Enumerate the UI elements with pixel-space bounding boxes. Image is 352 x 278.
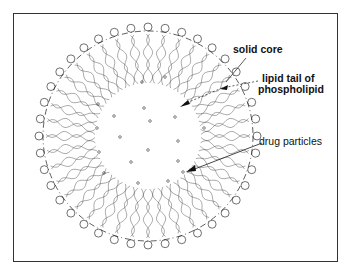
phospholipid-head: [127, 240, 135, 248]
phospholipid-head: [40, 98, 48, 106]
lipid-tail: [143, 189, 149, 238]
phospholipid-head: [252, 115, 260, 123]
phospholipid-shell: [35, 23, 261, 249]
lipid-tail: [153, 189, 165, 237]
lipid-tail: [117, 39, 135, 86]
label-drug-particles: drug particles: [259, 136, 322, 147]
lipid-tail: [52, 154, 99, 169]
drug-particle: [119, 136, 122, 139]
phospholipid-head: [178, 28, 186, 36]
drug-particle: [113, 115, 116, 118]
drug-particle: [177, 140, 180, 143]
lipid-tail: [46, 135, 95, 141]
lipid-tail: [52, 103, 99, 118]
lipid-tail: [115, 186, 130, 233]
phospholipid-head: [36, 149, 44, 157]
lipid-tail: [201, 131, 250, 137]
lipid-tail: [51, 150, 98, 168]
phospholipid-head: [35, 132, 43, 140]
drug-arrowhead-icon: [186, 165, 196, 172]
phospholipid-head: [161, 24, 169, 32]
lipid-tail: [166, 186, 181, 233]
lipid-tail: [132, 189, 144, 237]
drug-particle: [177, 160, 180, 163]
lipid-tail: [47, 120, 95, 132]
phospholipid-head: [110, 28, 118, 36]
phospholipid-head: [67, 55, 75, 63]
phospholipid-head: [144, 23, 152, 31]
lipid-tail: [147, 34, 153, 83]
lipid-tail: [46, 131, 95, 137]
phospholipid-head: [194, 229, 202, 237]
phospholipid-head: [161, 240, 169, 248]
drug-particle: [182, 171, 185, 174]
drug-particle: [174, 116, 177, 119]
lipid-tail: [147, 189, 153, 238]
drug-particle: [137, 182, 140, 185]
phospholipid-head: [178, 236, 186, 244]
lipid-tail: [162, 187, 180, 234]
lipid-tail: [166, 40, 181, 87]
lipid-tail: [201, 120, 249, 132]
phospholipid-head: [47, 182, 55, 190]
phospholipid-head: [40, 166, 48, 174]
lipid-tail: [51, 105, 98, 123]
lipid-tail: [199, 105, 246, 123]
core-arrowhead-icon: [180, 100, 190, 107]
drug-particle: [130, 161, 133, 164]
drug-particles: [96, 76, 206, 185]
phospholipid-head: [248, 98, 256, 106]
drug-particle: [149, 120, 152, 123]
drug-particle: [147, 149, 150, 152]
phospholipid-head: [144, 241, 152, 249]
monolayer-boundary: [43, 31, 253, 241]
phospholipid-head: [80, 44, 88, 52]
drug-particle: [167, 180, 170, 183]
phospholipid-head: [252, 149, 260, 157]
label-solid-core: solid core: [233, 44, 283, 55]
drug-particle: [164, 76, 167, 79]
phospholipid-head: [232, 68, 240, 76]
phospholipid-head: [208, 220, 216, 228]
drug-particle: [203, 127, 206, 130]
core-pointer-line: [184, 88, 222, 104]
lipid-tail: [115, 40, 130, 87]
lipid-tail: [198, 154, 245, 169]
phospholipid-head: [110, 236, 118, 244]
lipid-tail: [143, 34, 149, 83]
lipid-tail: [153, 35, 165, 83]
lipid-tail: [198, 103, 245, 118]
lipid-tail: [117, 187, 135, 234]
drug-particle: [143, 107, 146, 110]
lipid-tail: [132, 35, 144, 83]
lipid-tail: [47, 141, 95, 153]
phospholipid-head: [36, 115, 44, 123]
phospholipid-head: [127, 24, 135, 32]
lipid-tail: [201, 135, 250, 141]
label-lipid-tail-line2: phospholipid: [258, 84, 324, 95]
drug-particle: [96, 127, 99, 130]
drug-particle: [98, 151, 101, 154]
drug-particle: [97, 103, 100, 106]
phospholipid-head: [248, 166, 256, 174]
